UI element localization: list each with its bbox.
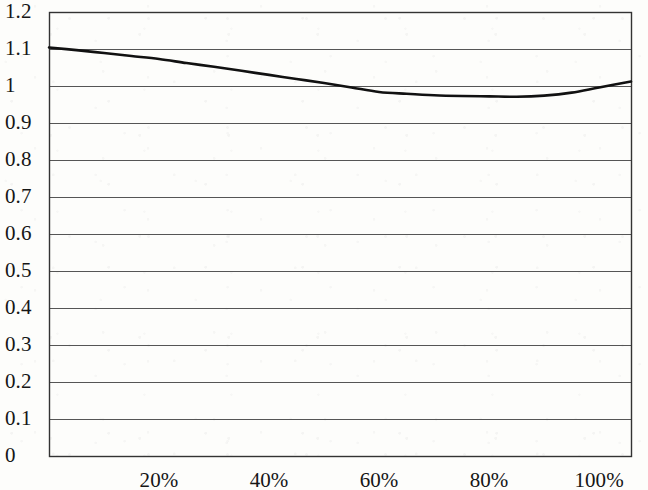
y-axis-tick-label: 0.9 (5, 112, 32, 133)
series-line (49, 48, 631, 97)
y-axis-tick-label: 1.2 (5, 1, 32, 22)
x-axis-tick-label: 100% (559, 470, 639, 490)
y-axis-tick-label: 0.2 (5, 371, 32, 392)
y-axis-tick-label: 0.3 (5, 334, 32, 355)
y-axis-tick-label: 0 (5, 445, 16, 466)
y-axis-tick-label: 0.4 (5, 297, 32, 318)
chart-page: 1.21.110.90.80.70.60.50.40.30.20.10 20%4… (0, 0, 648, 490)
x-axis-tick-label: 20% (119, 470, 199, 490)
gridlines (49, 13, 631, 457)
y-axis-tick-label: 0.6 (5, 223, 32, 244)
y-axis-tick-label: 0.5 (5, 260, 32, 281)
line-chart-plot (0, 0, 648, 490)
x-axis-tick-label: 60% (339, 470, 419, 490)
x-axis-tick-label: 40% (229, 470, 309, 490)
y-axis-tick-label: 0.8 (5, 149, 32, 170)
y-axis-tick-label: 1 (5, 75, 16, 96)
y-axis-tick-label: 0.1 (5, 408, 32, 429)
y-axis-tick-label: 0.7 (5, 186, 32, 207)
x-axis-tick-label: 80% (449, 470, 529, 490)
data-series-lines (49, 48, 631, 97)
y-axis-tick-label: 1.1 (5, 38, 32, 59)
